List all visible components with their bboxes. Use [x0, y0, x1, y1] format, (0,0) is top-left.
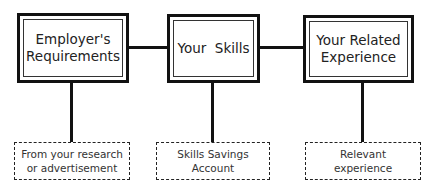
employers-requirements-box: Employer's Requirements — [17, 13, 129, 83]
your-skills-label: Your Skills — [177, 40, 249, 57]
connector-skills-to-experience — [259, 46, 304, 49]
your-skills-inner: Your Skills — [173, 20, 254, 77]
skills-savings-label: Skills Savings Account — [177, 147, 248, 175]
employers-requirements-label: Employer's Requirements — [26, 31, 120, 65]
research-source-box: From your research or advertisement — [14, 142, 130, 180]
connector-requirements-to-skills — [128, 46, 168, 49]
your-related-experience-inner: Your Related Experience — [309, 21, 408, 77]
skills-savings-box: Skills Savings Account — [156, 142, 270, 180]
connector-skills-to-savings — [211, 82, 214, 142]
employers-requirements-inner: Employer's Requirements — [23, 19, 123, 77]
your-skills-box: Your Skills — [167, 14, 260, 83]
connector-experience-to-relevant — [361, 82, 364, 142]
your-related-experience-label: Your Related Experience — [316, 32, 400, 66]
relevant-experience-box: Relevant experience — [305, 142, 421, 180]
research-source-label: From your research or advertisement — [21, 147, 123, 175]
relevant-experience-label: Relevant experience — [334, 147, 392, 175]
your-related-experience-box: Your Related Experience — [303, 15, 414, 83]
connector-requirements-to-research — [70, 82, 73, 142]
